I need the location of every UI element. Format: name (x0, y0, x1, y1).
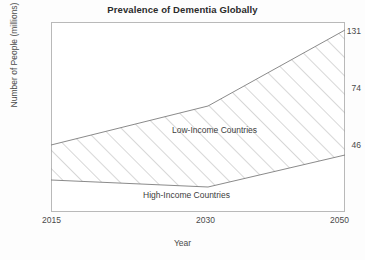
chart-title: Prevalence of Dementia Globally (0, 4, 365, 15)
hatched-band (51, 22, 345, 212)
series-label-low-income: Low-Income Countries (172, 126, 257, 135)
chart-figure: Prevalence of Dementia Globally 131 74 4… (0, 0, 365, 260)
x-axis-tick-2030: 2030 (196, 216, 215, 225)
series-label-high-income: High-Income Countries (143, 191, 230, 200)
x-axis-tick-2015: 2015 (42, 216, 61, 225)
plot-series-svg (51, 22, 345, 212)
y-axis-title: Number of People (millions) (9, 0, 19, 130)
x-axis-tick-2050: 2050 (330, 216, 349, 225)
x-axis-title: Year (0, 238, 365, 248)
